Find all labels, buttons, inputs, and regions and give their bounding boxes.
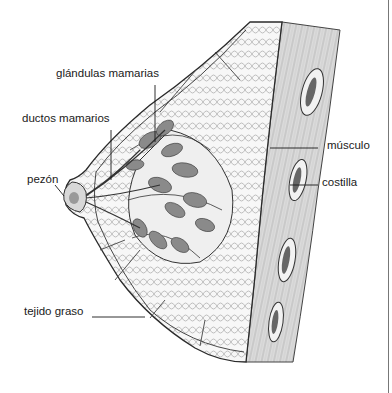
breast-anatomy-diagram: glándulas mamarias ductos mamarios pezón… [0,0,392,393]
label-ductos-mamarios: ductos mamarios [22,113,110,125]
label-costilla: costilla [322,177,357,189]
label-tejido-graso: tejido graso [24,306,83,318]
label-glandulas-mamarias: glándulas mamarias [56,68,159,80]
label-musculo: músculo [327,140,370,152]
label-pezon: pezón [27,174,58,186]
page-edge-divider [388,0,389,393]
illustration [0,0,392,393]
